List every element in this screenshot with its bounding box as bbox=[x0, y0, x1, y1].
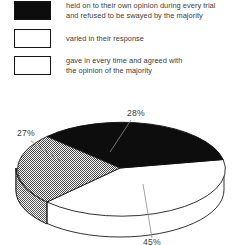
legend-label-line: and refused to be swayed by the majority bbox=[66, 11, 238, 21]
legend-label-line: varied in their response bbox=[66, 34, 238, 44]
legend-label-line: the opinion of the majority bbox=[66, 66, 238, 76]
pie-label-white: 45% bbox=[143, 237, 161, 245]
pie-chart: 28% 27% 45% bbox=[0, 96, 239, 245]
white-swatch bbox=[14, 29, 51, 48]
solid-black-swatch bbox=[14, 1, 51, 20]
legend-label-line: held on to their own opinion during ever… bbox=[66, 1, 238, 11]
dotted-swatch bbox=[14, 56, 51, 75]
pie-label-black: 28% bbox=[127, 108, 145, 118]
pie-label-dotted: 27% bbox=[17, 128, 35, 138]
legend-item-label: gave in every time and agreed with the o… bbox=[66, 56, 238, 75]
legend-label-line: gave in every time and agreed with bbox=[66, 56, 238, 66]
legend: held on to their own opinion during ever… bbox=[0, 0, 239, 88]
legend-item-label: held on to their own opinion during ever… bbox=[66, 1, 238, 20]
legend-item-label: varied in their response bbox=[66, 34, 238, 44]
pie-chart-svg bbox=[0, 96, 239, 245]
